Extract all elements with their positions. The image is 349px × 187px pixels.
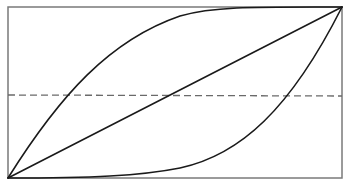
curves-diagram — [0, 0, 349, 187]
diagonal-line — [8, 7, 342, 178]
horizontal-dashed-line — [8, 95, 342, 96]
